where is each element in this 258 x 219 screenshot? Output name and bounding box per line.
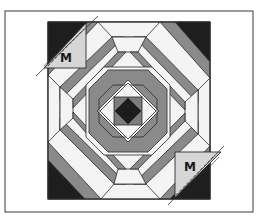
marker-label: M xyxy=(60,51,72,65)
pineapple-block-diagram: M M xyxy=(0,0,258,219)
marker-label: M xyxy=(184,160,196,174)
ring1-left xyxy=(48,75,60,142)
ring1-right xyxy=(198,78,210,146)
